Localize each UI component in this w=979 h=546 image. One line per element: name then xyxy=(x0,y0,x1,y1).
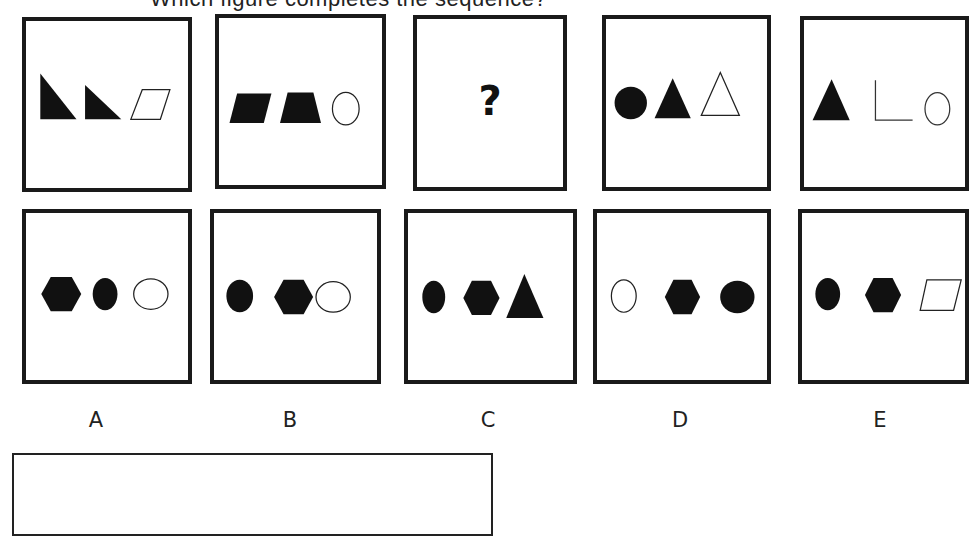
question-title: Which figure completes the sequence? xyxy=(150,0,547,12)
sequence-figure-4 xyxy=(606,19,767,187)
filled-ellipse-icon xyxy=(93,278,118,310)
outline-ellipse-icon xyxy=(134,279,168,309)
filled-trapezoid-icon xyxy=(280,92,321,123)
option-label-d: D xyxy=(660,408,700,432)
option-figure-b xyxy=(214,213,377,380)
filled-ellipse-icon xyxy=(226,280,253,312)
question-mark-icon: ? xyxy=(417,78,563,124)
answer-input-box[interactable] xyxy=(12,453,493,536)
option-figure-d xyxy=(597,213,767,380)
filled-right-triangle-icon xyxy=(40,74,76,120)
option-box-a[interactable] xyxy=(22,209,192,384)
option-label-b: B xyxy=(270,408,310,432)
option-box-b[interactable] xyxy=(210,209,381,384)
filled-triangle-icon xyxy=(655,78,691,118)
option-label-e: E xyxy=(860,408,900,432)
sequence-figure-1 xyxy=(26,21,188,188)
filled-right-triangle-icon xyxy=(85,85,121,119)
outline-ellipse-icon xyxy=(611,280,636,312)
outline-ellipse-icon xyxy=(316,282,350,313)
sequence-box-3-missing: ? xyxy=(413,15,567,191)
filled-parallelogram-icon xyxy=(229,93,271,123)
option-label-a: A xyxy=(76,408,116,432)
sequence-box-2 xyxy=(215,14,386,189)
filled-hexagon-icon xyxy=(41,277,81,311)
option-box-e[interactable] xyxy=(798,209,969,384)
sequence-box-1 xyxy=(22,17,192,192)
filled-triangle-icon xyxy=(506,274,543,318)
option-figure-c xyxy=(408,213,573,380)
filled-hexagon-icon xyxy=(274,280,313,314)
outline-right-angle-icon xyxy=(875,80,912,120)
filled-ellipse-icon xyxy=(720,281,754,313)
outline-triangle-icon xyxy=(701,73,739,116)
outline-parallelogram-icon xyxy=(131,90,170,120)
filled-ellipse-icon xyxy=(422,281,445,313)
sequence-box-5 xyxy=(800,16,969,191)
outline-parallelogram-icon xyxy=(920,280,961,311)
filled-hexagon-icon xyxy=(463,281,499,315)
outline-ellipse-icon xyxy=(332,92,359,124)
sequence-figure-2 xyxy=(219,18,382,185)
outline-ellipse-icon xyxy=(925,93,950,125)
option-label-c: C xyxy=(468,408,508,432)
filled-hexagon-icon xyxy=(865,278,901,312)
option-figure-a xyxy=(26,213,188,380)
option-box-c[interactable] xyxy=(404,209,577,384)
option-figure-e xyxy=(802,213,965,380)
sequence-box-4 xyxy=(602,15,771,191)
option-box-d[interactable] xyxy=(593,209,771,384)
filled-ellipse-icon xyxy=(815,278,840,310)
filled-circle-icon xyxy=(615,87,647,119)
sequence-figure-5 xyxy=(804,20,965,187)
filled-triangle-icon xyxy=(813,79,850,120)
filled-hexagon-icon xyxy=(665,280,700,314)
